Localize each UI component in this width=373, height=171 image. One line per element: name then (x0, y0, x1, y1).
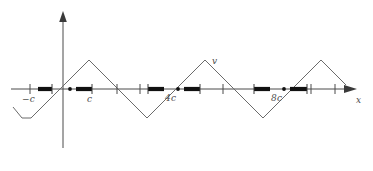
x-axis-label: x (356, 96, 361, 105)
tick-label-8c: 8c (271, 94, 282, 103)
tick-label-4c: 4c (165, 94, 176, 103)
tick-label-c: c (87, 95, 92, 104)
curve-label-v: v (212, 57, 217, 66)
figure-container: −c c 4c 8c v x (0, 0, 373, 171)
y-axis-group (59, 11, 67, 148)
tick-label-minus-c: −c (22, 95, 35, 104)
right-arrow-icon (344, 85, 357, 93)
node-dot (282, 87, 286, 91)
node-dot (68, 87, 72, 91)
wave-plot-svg (0, 0, 373, 171)
up-arrow-icon (59, 11, 67, 22)
node-dot (176, 87, 180, 91)
